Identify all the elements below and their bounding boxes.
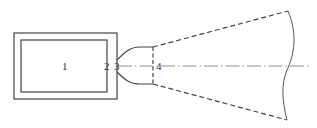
nozzle-lower-wall [117,72,153,84]
label-4: 4 [156,60,162,72]
plume-upper-boundary [153,11,288,47]
label-2: 2 [104,60,110,72]
label-1: 1 [62,60,68,72]
label-3: 3 [114,60,120,72]
nozzle-upper-wall [117,47,153,60]
plume-lower-boundary [153,84,287,120]
diagram-canvas: 1 2 3 4 [0,0,317,128]
break-line [283,11,294,120]
